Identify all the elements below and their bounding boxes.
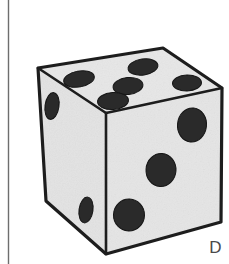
pip — [113, 198, 145, 231]
figure-page: D — [0, 0, 229, 264]
die-illustration — [0, 0, 229, 264]
panel-label: D — [209, 239, 222, 256]
right-face — [106, 88, 222, 254]
